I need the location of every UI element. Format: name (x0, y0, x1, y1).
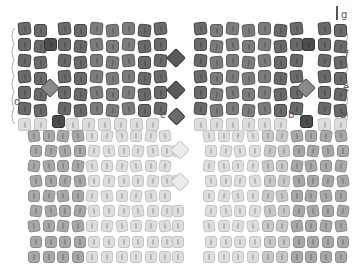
bead-hole (78, 208, 81, 214)
bead-hole (150, 254, 152, 260)
bead-hole (47, 163, 50, 169)
dark-bead (225, 69, 239, 83)
bead-hole (135, 163, 138, 169)
bead-hole (266, 163, 269, 169)
bead-hole (119, 121, 122, 127)
lower-bead (86, 189, 100, 203)
bead-hole (269, 239, 271, 245)
lower-bead (276, 251, 288, 263)
lower-bead (218, 220, 230, 232)
lower-bead (132, 236, 144, 248)
lower-bead (205, 145, 217, 157)
lower-bead (88, 236, 100, 248)
bead-hole (95, 89, 98, 95)
lower-bead (234, 205, 246, 217)
dark-bead (121, 53, 135, 67)
bead-hole (215, 107, 218, 113)
bead-hole (283, 208, 285, 214)
thread-segment (12, 108, 14, 124)
lower-bead (130, 130, 142, 142)
bead-hole (112, 44, 114, 50)
lower-bead (102, 174, 116, 188)
dark-bead (105, 23, 119, 37)
lower-bead (335, 251, 347, 263)
bead-hole (340, 254, 342, 260)
bead-hole (177, 254, 179, 260)
bead-hole (150, 163, 152, 169)
lower-bead (27, 219, 41, 233)
lower-bead (307, 144, 321, 158)
lower-bead (71, 129, 85, 143)
bead-hole (39, 107, 42, 113)
lower-bead (86, 130, 98, 142)
lower-bead (249, 236, 261, 248)
lower-bead (232, 219, 246, 233)
dark-bead (90, 54, 103, 67)
label-d: d (14, 97, 20, 107)
bead-hole (208, 193, 210, 199)
bead-hole (164, 254, 166, 260)
bead-hole (144, 108, 146, 114)
lower-bead (130, 251, 142, 263)
bead-hole (298, 239, 300, 245)
bead-hole (199, 25, 202, 31)
dark-bead (226, 54, 239, 67)
lower-bead (218, 130, 230, 142)
bead-hole (239, 178, 242, 184)
bead-hole (281, 254, 283, 260)
lower-bead (42, 189, 56, 203)
lower-bead (71, 159, 85, 173)
bead-hole (295, 163, 298, 169)
bead-hole (281, 133, 284, 139)
dark-bead (90, 102, 103, 115)
bead-hole (323, 105, 326, 111)
bead-hole (49, 148, 52, 154)
lower-bead (277, 144, 291, 158)
bead-hole (63, 105, 66, 111)
dark-bead (317, 53, 331, 67)
bead-hole (237, 223, 240, 229)
bead-hole (247, 107, 250, 113)
lower-bead (203, 251, 215, 263)
bead-hole (135, 193, 138, 199)
lower-bead (291, 251, 303, 263)
bead-hole (127, 41, 130, 47)
bead-hole (24, 42, 26, 48)
bead-hole (297, 208, 300, 214)
bead-hole (128, 26, 130, 32)
lower-bead (145, 160, 157, 172)
lower-bead (172, 220, 184, 232)
lower-bead (172, 236, 184, 248)
bead-hole (325, 163, 327, 169)
lower-bead (43, 251, 55, 263)
bead-hole (108, 239, 110, 245)
bead-hole (39, 43, 42, 49)
bead-hole (64, 178, 67, 184)
bead-hole (166, 239, 168, 245)
dark-bead (58, 38, 71, 51)
lower-bead (58, 144, 72, 158)
bead-hole (200, 42, 202, 48)
dark-bead (57, 53, 71, 67)
bead-hole (76, 163, 79, 169)
bead-hole (297, 178, 300, 184)
dark-bead (257, 101, 271, 115)
dark-bead (194, 86, 207, 99)
bead-hole (80, 76, 82, 82)
bead-hole (310, 163, 313, 169)
bead-hole (103, 121, 106, 127)
accent-bead (300, 115, 313, 128)
lower-bead (234, 144, 248, 158)
dark-bead (138, 104, 151, 117)
dark-bead (153, 53, 167, 67)
lower-bead (118, 236, 130, 248)
bead-hole (327, 239, 329, 245)
lower-bead (73, 174, 87, 188)
bead-hole (247, 27, 250, 33)
bead-hole (151, 121, 154, 127)
bead-hole (295, 25, 298, 31)
lower-bead (219, 144, 233, 158)
bead-hole (91, 133, 93, 139)
lower-bead (261, 159, 275, 173)
lower-bead (147, 236, 159, 248)
